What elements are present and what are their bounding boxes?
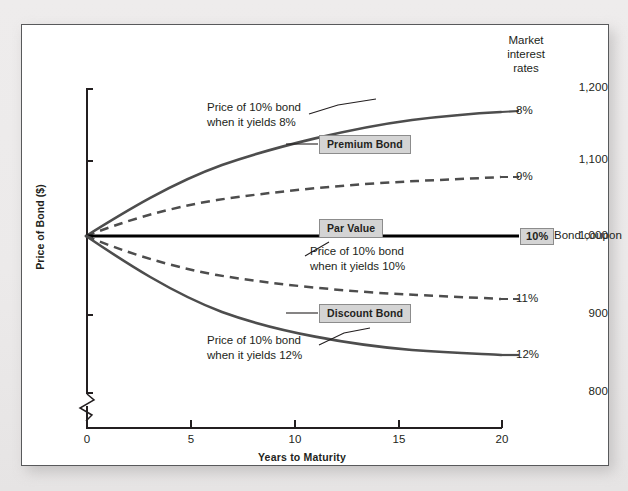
annotation-yield-10: Price of 10% bond when it yields 10%: [310, 244, 405, 273]
discount-bond-tag: Discount Bond: [319, 304, 411, 323]
coupon-badge-10-percent: 10%: [520, 228, 554, 245]
annotation-yield-10-line-1: Price of 10% bond: [310, 244, 405, 259]
plot-area: 1,200 1,100 1,000 900 800 0 5 10 15 20 P…: [22, 25, 608, 465]
curve-8-percent: [86, 112, 501, 236]
bond-coupon-label: Bond coupon: [554, 229, 622, 241]
rate-label-12-percent: 12%: [516, 348, 560, 360]
annotation-yield-12-line-1: Price of 10% bond: [207, 333, 302, 348]
rate-label-11-percent: 11%: [516, 292, 560, 304]
premium-bond-tag: Premium Bond: [319, 135, 411, 154]
legend-header-line-1: Market: [478, 33, 574, 47]
curve-11-percent: [86, 236, 501, 299]
annotation-yield-8: Price of 10% bond when it yields 8%: [207, 100, 301, 129]
figure-page: 1,200 1,100 1,000 900 800 0 5 10 15 20 P…: [0, 0, 628, 491]
cut-off-caption-remnant: [34, 0, 334, 8]
legend-header-line-2: interest: [478, 47, 574, 61]
legend-header-line-3: rates: [478, 61, 574, 75]
annotation-yield-12: Price of 10% bond when it yields 12%: [207, 333, 302, 362]
leader-line-yield8: [309, 99, 376, 114]
par-value-tag: Par Value: [319, 219, 383, 238]
annotation-yield-12-line-2: when it yields 12%: [207, 348, 302, 363]
rate-label-8-percent: 8%: [516, 104, 560, 116]
figure-panel: 1,200 1,100 1,000 900 800 0 5 10 15 20 P…: [21, 24, 609, 466]
annotation-yield-10-line-2: when it yields 10%: [310, 259, 405, 274]
legend-header: Market interest rates: [478, 33, 574, 75]
curve-9-percent: [86, 177, 501, 236]
annotation-yield-8-line-2: when it yields 8%: [207, 115, 301, 130]
rate-label-9-percent: 9%: [516, 170, 560, 182]
annotation-yield-8-line-1: Price of 10% bond: [207, 100, 301, 115]
